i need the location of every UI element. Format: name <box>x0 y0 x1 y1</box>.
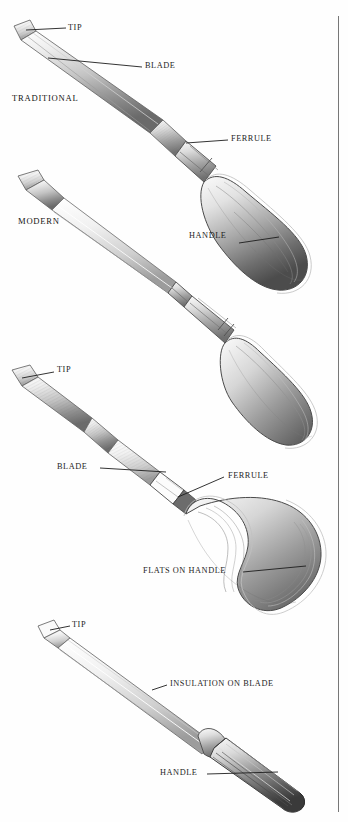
callout-tip-flat-handle: TIP <box>57 366 71 374</box>
callout-flats-on-handle: FLATS ON HANDLE <box>143 567 226 575</box>
callout-handle-traditional: HANDLE <box>189 232 226 240</box>
callout-tip-insulated: TIP <box>72 621 86 629</box>
callout-blade-traditional: BLADE <box>145 62 175 70</box>
figure-insulated <box>38 620 305 812</box>
illustration-sheet: TIP BLADE TRADITIONAL FERRULE HANDLE MOD… <box>0 0 348 822</box>
page-vertical-rule <box>338 16 339 812</box>
callout-ferrule-flat-handle: FERRULE <box>228 472 269 480</box>
callout-tip-traditional: TIP <box>68 24 82 32</box>
category-label-modern: MODERN <box>18 216 60 226</box>
callout-blade-flat-handle: BLADE <box>57 463 87 471</box>
callout-handle-insulated: HANDLE <box>160 769 197 777</box>
callout-ferrule-traditional: FERRULE <box>231 135 272 143</box>
callout-insulation-on-blade: INSULATION ON BLADE <box>170 680 274 688</box>
figure-flat-handle <box>12 365 326 614</box>
screwdriver-artwork <box>0 0 348 822</box>
figure-modern <box>18 170 317 448</box>
category-label-traditional: TRADITIONAL <box>12 93 79 103</box>
